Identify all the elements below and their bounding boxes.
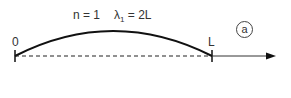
mode-number-label: n = 1 [73, 9, 100, 21]
lambda-subscript: 1 [120, 15, 124, 24]
right-end-label: L [208, 36, 215, 48]
panel-label-circle: a [236, 21, 253, 38]
axis-arrow-head-icon [266, 53, 276, 60]
wavelength-label: λ1 = 2L [114, 9, 152, 26]
left-end-label: 0 [12, 36, 19, 48]
standing-wave-arch [15, 31, 212, 56]
wavelength-value: = 2L [128, 8, 152, 22]
